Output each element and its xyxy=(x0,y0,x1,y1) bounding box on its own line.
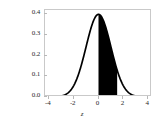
x-axis-title: z xyxy=(0,110,164,118)
normal-density-curve xyxy=(45,14,151,96)
y-tick-label: 0.0 xyxy=(32,92,40,99)
x-tick-mark xyxy=(147,96,148,99)
x-tick-label: -2 xyxy=(63,99,83,107)
y-tick-label: 0.4 xyxy=(32,9,40,16)
x-tick-label: -4 xyxy=(38,99,58,107)
x-tick-mark xyxy=(122,96,123,99)
normal-distribution-chart: 0.00.10.20.30.4 -4-2024 z xyxy=(0,0,164,124)
x-tick-label: 2 xyxy=(112,99,132,107)
x-tick-mark xyxy=(73,96,74,99)
y-tick-label: 0.3 xyxy=(32,30,40,37)
x-tick-label: 4 xyxy=(137,99,157,107)
y-tick-label: 0.1 xyxy=(32,71,40,78)
shaded-area-under-curve xyxy=(99,14,118,96)
y-tick-label: 0.2 xyxy=(32,51,40,58)
y-tick-mark xyxy=(44,34,47,35)
plot-canvas xyxy=(45,10,151,96)
y-tick-mark xyxy=(44,13,47,14)
x-tick-mark xyxy=(48,96,49,99)
y-tick-mark xyxy=(44,55,47,56)
x-tick-label: 0 xyxy=(88,99,108,107)
y-tick-mark xyxy=(44,96,47,97)
plot-area xyxy=(44,9,151,96)
y-tick-mark xyxy=(44,75,47,76)
x-tick-mark xyxy=(98,96,99,99)
